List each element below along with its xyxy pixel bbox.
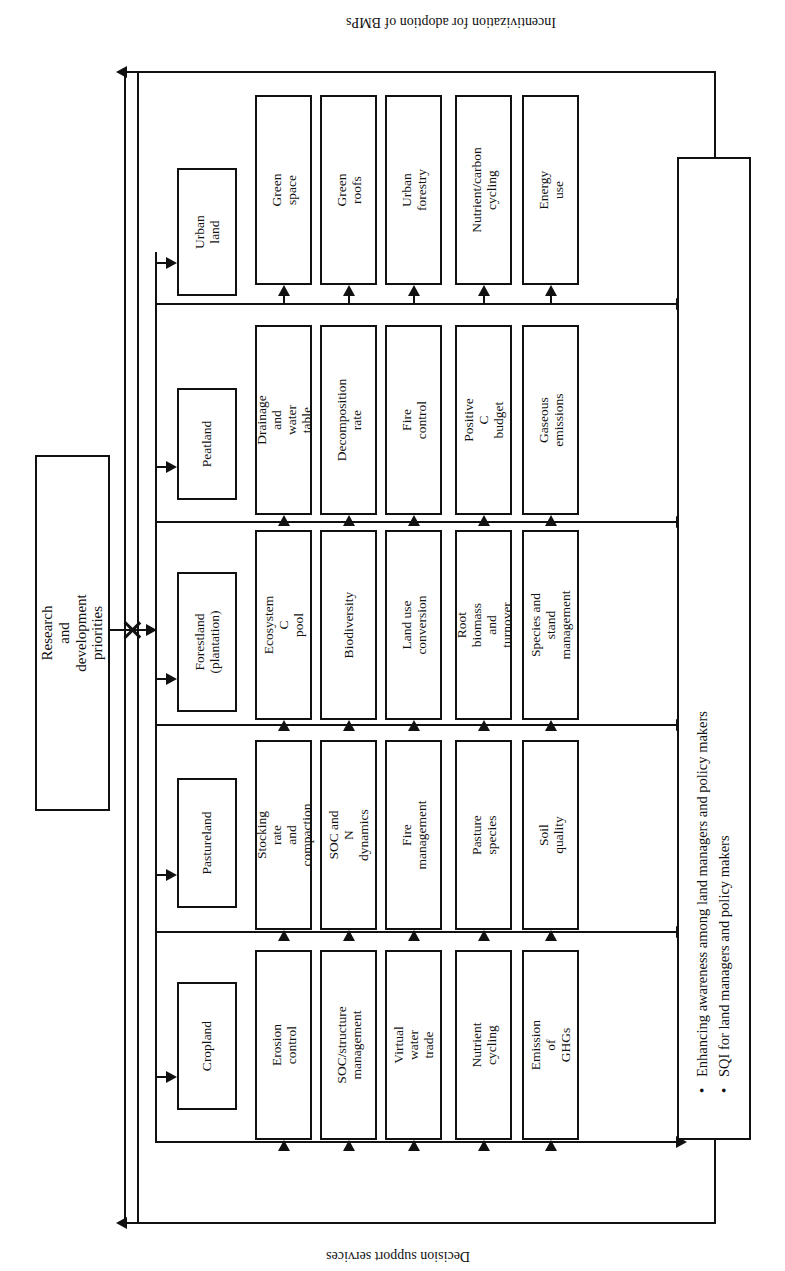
top-loop-right-riser	[714, 71, 716, 159]
practice-label: Root biomass and turnover	[453, 602, 513, 648]
practice-label: Species and stand management	[528, 591, 573, 660]
practice-label: Nutrient/carbon cycling	[468, 147, 498, 232]
practice-label: Stocking rate and compaction	[253, 804, 313, 867]
practice-stub	[550, 295, 552, 303]
category-label: Pastureland	[199, 812, 214, 875]
practice-label: Urban forestry	[398, 169, 428, 211]
practice-box[interactable]: Green roofs	[320, 95, 377, 285]
category-feed-arrowhead	[166, 461, 177, 473]
practice-box[interactable]: Fire control	[385, 325, 442, 515]
category-label: Peatland	[199, 421, 214, 468]
practice-label: Ecosystem C pool	[261, 596, 306, 655]
practice-stub-arrowhead	[278, 720, 290, 731]
category-box[interactable]: Urban land	[177, 168, 237, 296]
category-feed-arrowhead	[166, 869, 177, 881]
practice-label: Erosion control	[268, 1024, 298, 1066]
category-box[interactable]: Pastureland	[177, 778, 237, 908]
practice-stub	[483, 295, 485, 303]
rnd-connector-arrowhead	[146, 624, 157, 636]
practice-box[interactable]: Biodiversity	[320, 530, 377, 720]
practice-stub-arrowhead	[478, 720, 490, 731]
practice-stub-arrowhead	[478, 1140, 490, 1151]
practice-stub-arrowhead	[343, 1140, 355, 1151]
practice-box[interactable]: Urban forestry	[385, 95, 442, 285]
practice-box[interactable]: Energy use	[522, 95, 579, 285]
top-loop-left-riser	[124, 71, 126, 1224]
practice-label: Fire control	[398, 401, 428, 439]
category-box[interactable]: Forestland (plantation)	[177, 572, 237, 712]
practice-stub-arrowhead	[408, 930, 420, 941]
practice-box[interactable]: Emission of GHGs	[522, 950, 579, 1140]
practice-stub-arrowhead	[343, 720, 355, 731]
bottom-loop-arrowhead	[116, 1217, 127, 1229]
practice-box[interactable]: Nutrient cycling	[455, 950, 512, 1140]
practice-box[interactable]: Drainage and water table	[255, 325, 312, 515]
practice-stub	[283, 295, 285, 303]
practice-stub-arrowhead	[278, 930, 290, 941]
practice-stub-arrowhead	[545, 930, 557, 941]
practice-stub-arrowhead	[343, 930, 355, 941]
practice-stub-arrowhead	[278, 1140, 290, 1151]
practice-stub-arrowhead	[545, 285, 557, 296]
crossing-x-marker	[120, 619, 142, 641]
practice-box[interactable]: Decomposition rate	[320, 325, 377, 515]
practice-label: SOC and N dynamics	[326, 809, 371, 861]
category-label: Cropland	[199, 1021, 214, 1071]
practice-label: Land use conversion	[398, 595, 428, 654]
practice-box[interactable]: Root biomass and turnover	[455, 530, 512, 720]
category-label: Forestland (plantation)	[192, 611, 222, 674]
category-box[interactable]: Peatland	[177, 388, 237, 500]
bottom-loop-right-riser	[714, 1140, 716, 1224]
bottom-loop-horizontal	[126, 1222, 716, 1224]
practice-label: Soil quality	[535, 816, 565, 854]
practice-box[interactable]: Positive C budget	[455, 325, 512, 515]
practice-box[interactable]: Ecosystem C pool	[255, 530, 312, 720]
practice-box[interactable]: SOC and N dynamics	[320, 740, 377, 930]
category-box[interactable]: Cropland	[177, 982, 237, 1110]
practice-label: Fire management	[398, 801, 428, 870]
practice-label: Energy use	[535, 171, 565, 210]
practice-stub-arrowhead	[545, 720, 557, 731]
category-feed-vertical	[155, 252, 157, 1142]
practice-label: Virtual water trade	[391, 1026, 436, 1063]
practice-stub-arrowhead	[408, 285, 420, 296]
category-feed-arrowhead	[166, 673, 177, 685]
practice-label: Decomposition rate	[333, 379, 363, 462]
practice-stub-arrowhead	[408, 1140, 420, 1151]
outcome-box[interactable]: Enhancing awareness among land managers …	[677, 157, 751, 1140]
category-feed-arrowhead	[166, 1071, 177, 1083]
practice-box[interactable]: Fire management	[385, 740, 442, 930]
practice-stub-arrowhead	[278, 285, 290, 296]
outcome-bullet: SQI for land managers and policy makers	[714, 199, 736, 1077]
practice-label: Green roofs	[333, 174, 363, 207]
practice-box[interactable]: Nutrient/carbon cycling	[455, 95, 512, 285]
practice-box[interactable]: Species and stand management	[522, 530, 579, 720]
practice-stub-arrowhead	[408, 515, 420, 526]
practice-box[interactable]: Land use conversion	[385, 530, 442, 720]
practice-feed-rail	[155, 303, 676, 305]
practice-box[interactable]: Virtual water trade	[385, 950, 442, 1140]
research-and-development-label: Research and development priorities	[39, 594, 106, 671]
practice-stub-arrowhead	[478, 515, 490, 526]
practice-label: Green space	[268, 174, 298, 207]
practice-label: SOC/structure management	[333, 1006, 363, 1083]
outcome-bullet-list: Enhancing awareness among land managers …	[692, 199, 736, 1099]
practice-box[interactable]: SOC/structure management	[320, 950, 377, 1140]
top-loop-horizontal	[126, 71, 716, 73]
practice-stub-arrowhead	[343, 515, 355, 526]
category-label: Urban land	[192, 215, 222, 249]
practice-box[interactable]: Stocking rate and compaction	[255, 740, 312, 930]
practice-box[interactable]: Erosion control	[255, 950, 312, 1140]
diagram-canvas: Incentivization for adoption of BMPs Dec…	[0, 0, 785, 1271]
practice-label: Biodiversity	[341, 592, 356, 659]
practice-box[interactable]: Green space	[255, 95, 312, 285]
practice-box[interactable]: Pasture species	[455, 740, 512, 930]
practice-stub-arrowhead	[545, 515, 557, 526]
practice-stub	[348, 295, 350, 303]
practice-stub-arrowhead	[478, 930, 490, 941]
research-and-development-box[interactable]: Research and development priorities	[35, 455, 110, 811]
bottom-loop-label: Decision support services	[326, 1248, 470, 1264]
practice-box[interactable]: Gaseous emissions	[522, 325, 579, 515]
practice-label: Emission of GHGs	[528, 1020, 573, 1070]
practice-box[interactable]: Soil quality	[522, 740, 579, 930]
